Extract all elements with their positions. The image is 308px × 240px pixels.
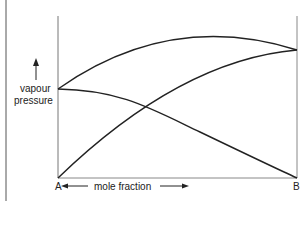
- x-axis-label: mole fraction: [94, 181, 151, 192]
- x-arrow-left-icon: [61, 184, 68, 189]
- y-label-pressure: pressure: [14, 95, 53, 106]
- y-label-vapour: vapour: [20, 83, 51, 94]
- partial-pressure-b-curve: [58, 50, 297, 178]
- x-arrow-right-icon: [182, 184, 189, 189]
- total-pressure-curve: [58, 37, 297, 89]
- component-b-label: B: [293, 181, 300, 192]
- component-a-label: A: [55, 181, 62, 192]
- y-arrow-up-icon: [33, 58, 39, 66]
- partial-pressure-a-curve: [58, 89, 297, 178]
